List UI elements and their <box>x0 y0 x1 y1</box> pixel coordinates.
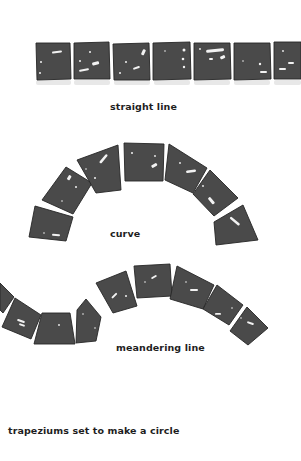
tile-diagram <box>0 0 301 461</box>
meander-tile-5 <box>96 271 137 313</box>
meandering-line <box>0 264 268 345</box>
meander-tile-4 <box>76 299 101 343</box>
straight-tile-4 <box>153 42 191 80</box>
caption-curve: curve <box>110 228 140 239</box>
caption-straight-line: straight line <box>110 101 177 112</box>
straight-tile-3 <box>113 43 150 80</box>
straight-tile-5 <box>194 43 231 80</box>
curve-tile-4 <box>124 143 164 181</box>
curve-arch <box>29 143 258 245</box>
caption-trapeziums-circle: trapeziums set to make a circle <box>8 425 179 436</box>
straight-tile-6 <box>234 43 271 80</box>
straight-tile-2 <box>74 42 110 79</box>
straight-tile-1 <box>36 43 71 80</box>
straight-line-row <box>36 42 301 85</box>
curve-tile-2 <box>42 167 92 214</box>
straight-tile-7 <box>274 42 301 79</box>
caption-meandering-line: meandering line <box>116 342 205 353</box>
meander-tile-6 <box>134 264 172 298</box>
